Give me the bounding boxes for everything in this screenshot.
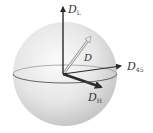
label-d: D xyxy=(83,52,92,63)
label-d45: D45 xyxy=(126,60,144,73)
label-dl: DL xyxy=(67,3,81,16)
poincare-sphere-diagram: DL D D45 DH xyxy=(0,0,153,133)
